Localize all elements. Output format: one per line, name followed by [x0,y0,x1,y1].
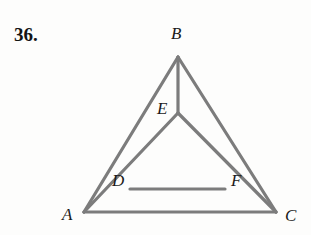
vertex-label-f: F [231,172,241,189]
vertex-label-d: D [112,172,124,189]
geometry-figure: 36. A B C D E F [0,0,311,235]
cevian-CE [178,113,276,212]
triangle-diagram-svg [0,0,311,235]
cevian-AE [84,113,178,212]
vertex-label-e: E [157,100,167,117]
vertex-label-a: A [62,206,72,223]
vertex-label-c: C [285,207,296,224]
vertex-label-b: B [171,25,181,42]
